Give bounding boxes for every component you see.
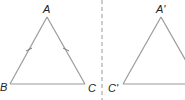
triangle-abc	[10, 17, 85, 84]
side-ac	[47, 17, 85, 84]
vertex-label-a: A	[42, 3, 50, 15]
side-a-prime-c-prime	[123, 17, 161, 84]
reflection-diagram: A B C A' C'	[0, 0, 185, 100]
vertex-label-b: B	[0, 81, 7, 93]
vertex-label-a-prime: A'	[155, 3, 166, 15]
vertex-label-c: C	[88, 82, 96, 94]
side-ab	[10, 17, 47, 84]
vertex-label-c-prime: C'	[108, 82, 119, 94]
side-a-prime-b-prime	[161, 17, 185, 84]
triangle-image	[123, 17, 185, 84]
